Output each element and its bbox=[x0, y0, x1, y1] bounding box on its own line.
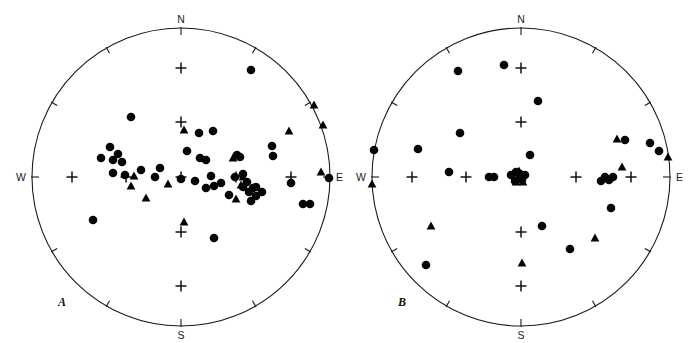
perimeter-tick-60deg bbox=[305, 102, 311, 106]
data-point-circle-1-22 bbox=[566, 245, 575, 254]
data-point-circle-0-39 bbox=[202, 156, 211, 165]
data-point-circle-0-31 bbox=[306, 200, 315, 209]
perimeter-tick-210deg bbox=[106, 301, 110, 307]
panel-label-B: B bbox=[397, 295, 406, 309]
data-point-circle-1-20 bbox=[607, 204, 616, 213]
data-point-circle-0-35 bbox=[210, 234, 219, 243]
data-point-circle-0-29 bbox=[287, 179, 296, 188]
perimeter-tick-120deg bbox=[305, 249, 311, 253]
compass-label-east: E bbox=[676, 171, 683, 183]
data-point-circle-0-14 bbox=[325, 174, 334, 183]
data-point-circle-1-8 bbox=[655, 147, 664, 156]
data-point-circle-0-40 bbox=[156, 164, 165, 173]
perimeter-tick-330deg bbox=[446, 47, 450, 53]
stereonet-panel-a: NSWEA bbox=[0, 0, 345, 343]
perimeter-tick-300deg bbox=[51, 102, 57, 106]
grid-cross-0 bbox=[176, 63, 187, 74]
perimeter-tick-240deg bbox=[391, 249, 397, 253]
data-point-circle-1-25 bbox=[507, 171, 516, 180]
data-point-circle-0-21 bbox=[217, 179, 226, 188]
grid-cross-8 bbox=[626, 172, 637, 183]
grid-cross-4 bbox=[176, 281, 187, 292]
perimeter-tick-240deg bbox=[51, 249, 57, 253]
grid-cross-0 bbox=[516, 63, 527, 74]
data-point-circle-0-3 bbox=[209, 127, 218, 136]
data-point-circle-1-4 bbox=[414, 145, 423, 154]
stereonet-panel-b: NSWEB bbox=[344, 0, 689, 343]
data-point-circle-0-16 bbox=[236, 153, 245, 162]
data-point-circle-0-41 bbox=[151, 173, 160, 182]
data-point-circle-0-27 bbox=[202, 184, 211, 193]
data-point-circle-0-13 bbox=[177, 175, 186, 184]
perimeter-tick-300deg bbox=[391, 102, 397, 106]
data-point-circle-0-34 bbox=[89, 216, 98, 225]
data-point-circle-0-4 bbox=[106, 143, 115, 152]
data-point-circle-0-12 bbox=[121, 171, 130, 180]
data-point-circle-0-38 bbox=[183, 147, 192, 156]
panel-label-A: A bbox=[57, 295, 66, 309]
data-point-circle-0-11 bbox=[137, 166, 146, 175]
data-point-circle-1-26 bbox=[601, 173, 610, 182]
data-point-triangle-0-13 bbox=[180, 218, 189, 226]
grid-cross-3 bbox=[516, 227, 527, 238]
perimeter-tick-330deg bbox=[106, 47, 110, 53]
data-point-triangle-0-3 bbox=[285, 127, 294, 135]
grid-cross-5 bbox=[67, 172, 78, 183]
data-point-circle-0-28 bbox=[225, 191, 234, 200]
data-point-circle-1-21 bbox=[538, 222, 547, 231]
data-point-triangle-0-6 bbox=[164, 180, 173, 188]
grid-cross-1 bbox=[176, 117, 187, 128]
data-point-circle-0-17 bbox=[231, 173, 240, 182]
data-point-circle-1-0 bbox=[500, 61, 509, 70]
perimeter-tick-210deg bbox=[446, 301, 450, 307]
data-point-triangle-0-4 bbox=[127, 182, 136, 190]
perimeter-tick-150deg bbox=[253, 301, 257, 307]
data-point-triangle-0-7 bbox=[130, 172, 139, 180]
compass-label-south: S bbox=[177, 329, 184, 341]
data-point-circle-1-6 bbox=[621, 136, 630, 145]
data-point-circle-0-33 bbox=[247, 197, 256, 206]
grid-cross-3 bbox=[176, 227, 187, 238]
data-point-circle-1-19 bbox=[609, 173, 618, 182]
data-point-circle-1-1 bbox=[454, 67, 463, 76]
compass-label-east: E bbox=[336, 171, 343, 183]
data-point-circle-1-23 bbox=[422, 261, 431, 270]
data-point-triangle-0-5 bbox=[142, 194, 151, 202]
compass-label-north: N bbox=[517, 13, 525, 25]
data-point-triangle-1-9 bbox=[518, 259, 527, 267]
stereonet-b-svg: NSWEB bbox=[344, 0, 689, 343]
data-point-triangle-1-3 bbox=[368, 180, 377, 188]
data-point-circle-0-1 bbox=[127, 113, 136, 122]
data-point-circle-1-5 bbox=[370, 146, 379, 155]
perimeter-tick-150deg bbox=[593, 301, 597, 307]
data-point-circle-1-9 bbox=[526, 151, 535, 160]
data-point-triangle-0-12 bbox=[317, 168, 326, 176]
data-point-triangle-1-2 bbox=[664, 153, 673, 161]
data-point-circle-1-7 bbox=[646, 139, 655, 148]
data-point-circle-0-43 bbox=[118, 158, 127, 167]
grid-cross-7 bbox=[571, 172, 582, 183]
perimeter-tick-120deg bbox=[645, 249, 651, 253]
data-point-circle-0-9 bbox=[269, 152, 278, 161]
perimeter-tick-30deg bbox=[253, 47, 257, 53]
data-point-circle-1-10 bbox=[445, 168, 454, 177]
grid-cross-6 bbox=[461, 172, 472, 183]
data-point-triangle-1-8 bbox=[591, 234, 600, 242]
grid-cross-1 bbox=[516, 117, 527, 128]
data-point-circle-1-2 bbox=[534, 97, 543, 106]
perimeter-tick-30deg bbox=[593, 47, 597, 53]
data-point-circle-0-0 bbox=[247, 66, 256, 75]
grid-cross-5 bbox=[407, 172, 418, 183]
compass-label-north: N bbox=[177, 13, 185, 25]
stereonet-a-svg: NSWEA bbox=[0, 0, 345, 343]
data-point-triangle-1-7 bbox=[427, 222, 436, 230]
data-point-circle-1-3 bbox=[456, 129, 465, 138]
compass-label-west: W bbox=[356, 171, 366, 183]
data-point-triangle-1-1 bbox=[618, 163, 627, 171]
data-point-triangle-1-0 bbox=[613, 135, 622, 143]
data-point-circle-0-26 bbox=[191, 177, 200, 186]
perimeter-tick-60deg bbox=[645, 102, 651, 106]
data-point-circle-0-2 bbox=[195, 129, 204, 138]
data-point-circle-0-42 bbox=[114, 150, 123, 159]
data-point-circle-0-10 bbox=[109, 169, 118, 178]
